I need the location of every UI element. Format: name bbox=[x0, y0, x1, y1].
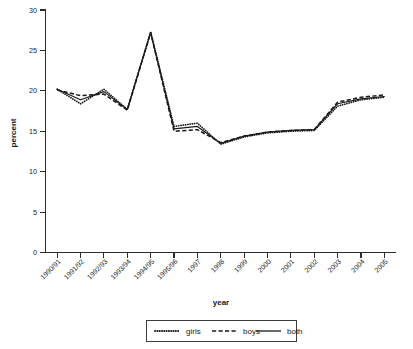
y-tick-label: 0 bbox=[33, 248, 37, 257]
legend-label-girls: girls bbox=[186, 327, 201, 336]
x-axis-title: year bbox=[213, 298, 229, 307]
y-tick-label: 20 bbox=[29, 86, 37, 95]
y-tick-label: 15 bbox=[29, 127, 37, 136]
chart-background bbox=[0, 0, 413, 349]
legend-label-both: both bbox=[287, 327, 303, 336]
y-tick-label: 5 bbox=[33, 208, 37, 217]
line-chart: 051015202530 percent 1990/911991/921992/… bbox=[0, 0, 413, 349]
y-tick-label: 10 bbox=[29, 167, 37, 176]
y-tick-label: 30 bbox=[29, 6, 37, 15]
chart-legend: girlsboysboth bbox=[147, 321, 303, 342]
y-tick-label: 25 bbox=[29, 46, 37, 55]
y-axis-title: percent bbox=[9, 118, 18, 147]
